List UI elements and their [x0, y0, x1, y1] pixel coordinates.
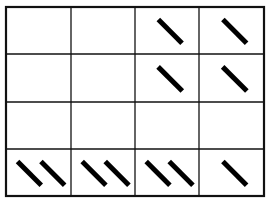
grid-cell: [71, 7, 135, 54]
grid-cell: [199, 149, 264, 196]
grid-cell: [71, 149, 135, 196]
grid-cell: [135, 149, 199, 196]
grid-cell: [199, 7, 264, 54]
grid-cell: [71, 54, 135, 102]
grid-cell: [135, 102, 199, 149]
grid-cell: [135, 54, 199, 102]
grid-cell: [6, 102, 71, 149]
grid-cell: [199, 102, 264, 149]
grid-cell: [6, 54, 71, 102]
grid-cell: [135, 7, 199, 54]
grid-cell: [6, 7, 71, 54]
grid-cell: [199, 54, 264, 102]
tally-grid: [0, 0, 269, 207]
grid-cell: [6, 149, 71, 196]
grid-cell: [71, 102, 135, 149]
